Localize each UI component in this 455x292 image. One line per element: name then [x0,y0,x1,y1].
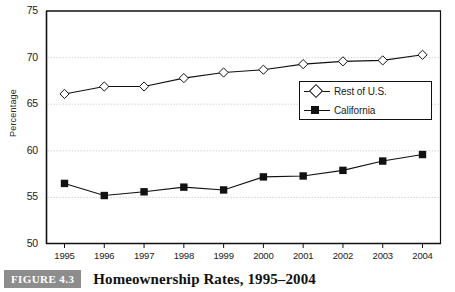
axes-group [46,11,441,244]
y-tick-label: 55 [12,190,38,202]
filled-square-marker-icon [300,101,334,120]
series-group [60,50,427,199]
data-point-marker [419,151,426,158]
x-tick-label: 2003 [363,250,403,261]
figure-container: Percentage 505560657075 1995199619971998… [0,0,455,292]
x-tick-label: 2004 [403,250,443,261]
data-point-marker [418,50,427,59]
figure-caption-bar: FIGURE 4.3 Homeownership Rates, 1995–200… [0,266,455,292]
x-tick-label: 2001 [283,250,323,261]
chart-canvas [0,0,455,264]
x-tick-label: 1997 [124,250,164,261]
x-tick-label: 2002 [323,250,363,261]
x-tick-label: 1999 [204,250,244,261]
x-tick-label: 1995 [45,250,85,261]
data-point-marker [379,157,386,164]
data-point-marker [101,192,108,199]
data-point-marker [220,186,227,193]
data-point-marker [60,89,69,98]
legend-label-rest-of-us: Rest of U.S. [334,86,387,97]
data-point-marker [100,82,109,91]
chart-plot-area: Percentage 505560657075 1995199619971998… [0,0,455,264]
data-point-marker [339,167,346,174]
figure-number-badge: FIGURE 4.3 [4,270,81,288]
data-point-marker [299,60,308,69]
data-point-marker [338,57,347,66]
data-point-marker [139,82,148,91]
data-point-marker [259,65,268,74]
data-point-marker [260,173,267,180]
gridlines-group [48,58,441,198]
x-tick-label: 1998 [164,250,204,261]
chart-legend: Rest of U.S. California [299,81,432,120]
data-point-marker [61,180,68,187]
data-point-marker [140,188,147,195]
y-tick-label: 70 [12,51,38,63]
legend-label-california: California [334,105,375,116]
data-point-marker [179,74,188,83]
y-tick-label: 65 [12,97,38,109]
y-tick-label: 75 [12,4,38,16]
y-tick-label: 50 [12,237,38,249]
legend-item-rest-of-us: Rest of U.S. [300,82,433,101]
y-tick-label: 60 [12,144,38,156]
data-point-marker [299,172,306,179]
series-line-california [65,155,423,196]
legend-item-california: California [300,101,433,120]
data-point-marker [378,56,387,65]
data-point-marker [219,68,228,77]
x-tick-label: 2000 [243,250,283,261]
x-tick-label: 1996 [84,250,124,261]
data-point-marker [180,183,187,190]
x-tick-marks-group [65,244,423,248]
open-diamond-marker-icon [300,82,334,101]
figure-caption-text: Homeownership Rates, 1995–2004 [93,271,316,288]
